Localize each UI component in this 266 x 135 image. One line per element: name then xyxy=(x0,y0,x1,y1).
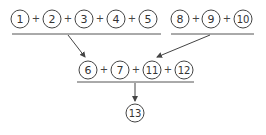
plus-sign: + xyxy=(223,13,231,24)
svg-text:12: 12 xyxy=(178,65,191,76)
svg-text:3: 3 xyxy=(81,13,88,26)
node-11: 11 xyxy=(143,61,161,79)
arrow-group-b-to-11 xyxy=(157,35,210,57)
group-b: 8 + 9 + 10 xyxy=(171,10,254,34)
plus-sign: + xyxy=(32,13,40,24)
svg-text:11: 11 xyxy=(146,65,159,76)
node-12: 12 xyxy=(175,61,193,79)
svg-text:4: 4 xyxy=(113,13,120,26)
arrow-group-a-to-6 xyxy=(68,35,85,57)
svg-text:8: 8 xyxy=(177,13,184,26)
node-4: 4 xyxy=(107,10,125,28)
node-5: 5 xyxy=(139,10,157,28)
node-10: 10 xyxy=(234,10,252,28)
svg-text:2: 2 xyxy=(49,13,56,26)
node-1: 1 xyxy=(11,10,29,28)
node-8: 8 xyxy=(171,10,189,28)
plus-sign: + xyxy=(132,64,140,75)
node-7: 7 xyxy=(111,61,129,79)
svg-text:1: 1 xyxy=(17,13,24,26)
plus-sign: + xyxy=(192,13,200,24)
plus-sign: + xyxy=(64,13,72,24)
addition-tree-diagram: 1 + 2 + 3 + 4 + 5 8 + 9 xyxy=(0,0,266,135)
svg-text:5: 5 xyxy=(145,13,152,26)
node-6: 6 xyxy=(79,61,97,79)
plus-sign: + xyxy=(128,13,136,24)
svg-text:10: 10 xyxy=(237,14,250,25)
node-2: 2 xyxy=(43,10,61,28)
plus-sign: + xyxy=(100,64,108,75)
group-a: 1 + 2 + 3 + 4 + 5 xyxy=(11,10,161,34)
svg-text:6: 6 xyxy=(85,64,92,77)
middle-row: 6 + 7 + 11 + 12 xyxy=(77,61,194,82)
svg-text:9: 9 xyxy=(208,13,215,26)
plus-sign: + xyxy=(96,13,104,24)
node-9: 9 xyxy=(202,10,220,28)
svg-text:13: 13 xyxy=(129,108,142,119)
node-13: 13 xyxy=(126,104,144,122)
plus-sign: + xyxy=(164,64,172,75)
svg-text:7: 7 xyxy=(117,64,124,77)
node-3: 3 xyxy=(75,10,93,28)
